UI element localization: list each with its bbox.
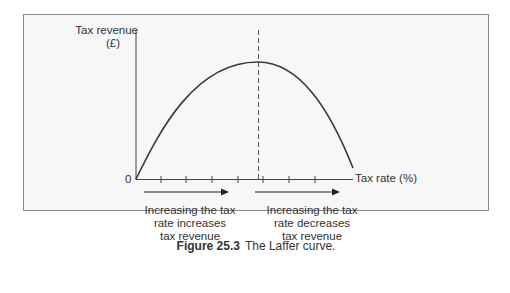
right-arrow-head: [332, 189, 340, 196]
figure-caption-text: The Laffer curve.: [245, 239, 336, 253]
y-axis-label: Tax revenue (£): [40, 24, 138, 50]
right-annotation-line1: Increasing the tax: [252, 204, 372, 217]
figure-caption: Figure 25.3The Laffer curve.: [23, 240, 489, 253]
y-label-line1: Tax revenue: [40, 24, 138, 37]
figure-number: Figure 25.3: [177, 239, 240, 253]
right-annotation-line2: rate decreases: [252, 217, 372, 230]
laffer-curve: [136, 62, 353, 179]
left-annotation-line1: Increasing the tax: [130, 204, 250, 217]
origin-label: 0: [125, 173, 131, 186]
left-annotation-line2: rate increases: [130, 217, 250, 230]
x-axis-label: Tax rate (%): [355, 172, 417, 185]
y-label-line2: (£): [40, 37, 120, 50]
right-annotation: Increasing the tax rate decreases tax re…: [252, 204, 372, 243]
left-annotation: Increasing the tax rate increases tax re…: [130, 204, 250, 243]
left-arrow-head: [221, 189, 229, 196]
